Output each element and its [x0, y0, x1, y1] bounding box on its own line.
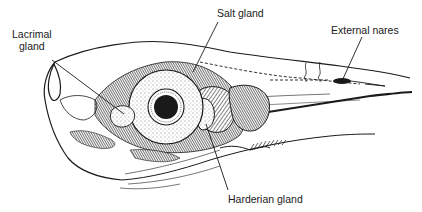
label-salt-gland: Salt gland: [217, 7, 264, 19]
eyeball: [129, 70, 203, 144]
leader-salt: [193, 22, 218, 72]
label-lacrimal-line2: gland: [12, 40, 52, 52]
label-harderian-gland: Harderian gland: [228, 193, 303, 205]
leader-nares: [342, 37, 362, 81]
anatomy-diagram: Lacrimal gland Salt gland External nares…: [0, 0, 422, 212]
lacrimal-gland-shape: [110, 106, 134, 127]
label-lacrimal-line1: Lacrimal: [12, 28, 52, 40]
label-lacrimal-gland: Lacrimal gland: [12, 28, 52, 52]
label-external-nares: External nares: [331, 24, 399, 36]
